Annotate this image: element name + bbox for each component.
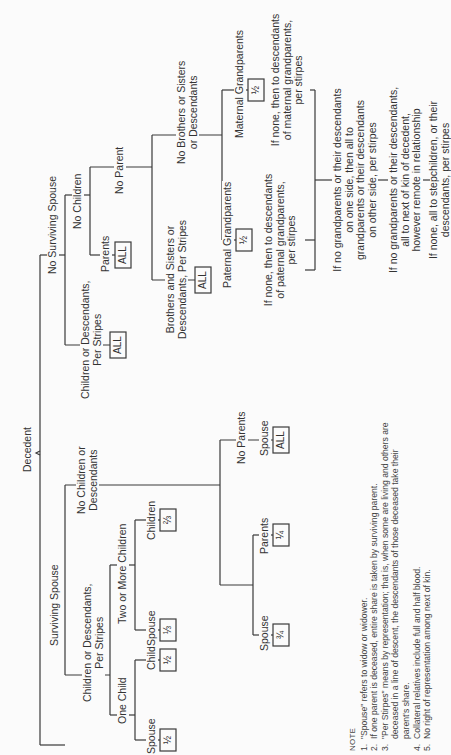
maternal-grandparents-label: Maternal Grandparents bbox=[234, 29, 246, 139]
notes-title: NOTE bbox=[348, 421, 359, 751]
no-parent-label: No Parent bbox=[114, 146, 126, 195]
chain-step-2: If no grandparents or their descendants,… bbox=[388, 85, 423, 275]
note-item: 4.Collateral relatives include full and … bbox=[412, 421, 423, 751]
note-item: 1."Spouse" refers to widow or widower. bbox=[359, 421, 370, 751]
surviving-spouse-label: Surviving Spouse bbox=[49, 563, 61, 647]
siblings-label: Brothers and Sisters or Descendants, Per… bbox=[165, 219, 188, 340]
parents-share: ALL bbox=[117, 242, 128, 268]
chain-step-1: If no grandparents or their descendants … bbox=[332, 85, 378, 275]
no-parents-spouse-share: ALL bbox=[275, 427, 286, 453]
children-descendants-label: Children or Descendants, Per Stripes bbox=[82, 583, 105, 703]
parents-with-spouse-share: ¼ bbox=[275, 524, 286, 546]
note-item: 5.No right of representation among next … bbox=[422, 421, 433, 751]
decedent-label: Decedent bbox=[22, 426, 34, 473]
two-or-more-children-sub-label: Children bbox=[146, 500, 158, 541]
paternal-share: ½ bbox=[238, 229, 249, 251]
paternal-grandparents-label: Paternal Grandparents bbox=[222, 181, 234, 289]
maternal-share: ½ bbox=[250, 79, 261, 101]
no-parents-label: No Parents bbox=[236, 410, 248, 465]
spouse-with-parents-share: ¾ bbox=[275, 624, 286, 646]
nss-children-share: ALL bbox=[112, 332, 123, 358]
two-or-more-spouse-share: ⅓ bbox=[162, 619, 173, 641]
maternal-fallback: If none, then to descendants of maternal… bbox=[270, 5, 305, 155]
siblings-share: ALL bbox=[197, 267, 208, 293]
nss-children-descendants-label: Children or Descendants, Per Stripes bbox=[80, 280, 103, 400]
note-item: 2.If one parent is deceased, entire shar… bbox=[369, 421, 380, 751]
two-or-more-children-share: ⅔ bbox=[162, 509, 173, 531]
chain-step-3: If none, all to stepchildren, or their d… bbox=[428, 85, 451, 275]
two-or-more-children-label: Two or More Children bbox=[117, 523, 129, 625]
paternal-fallback: If none, then to descendants of paternal… bbox=[263, 165, 298, 315]
notes-section: NOTE 1."Spouse" refers to widow or widow… bbox=[348, 421, 433, 751]
parents-label: Parents bbox=[100, 235, 112, 273]
one-child-child-share: ½ bbox=[162, 649, 173, 671]
spouse-with-parents-label: Spouse bbox=[259, 614, 271, 652]
parents-with-spouse-label: Parents bbox=[259, 517, 271, 555]
no-siblings-label: No Brothers or Sisters or Descendants bbox=[176, 60, 199, 165]
no-surviving-spouse-label: No Surviving Spouse bbox=[47, 175, 59, 275]
one-child-child-label: Child bbox=[146, 645, 158, 671]
no-children-label: No Children bbox=[72, 173, 84, 230]
no-parents-spouse-label: Spouse bbox=[259, 419, 271, 457]
one-child-label: One Child bbox=[117, 676, 129, 725]
note-item: 3."Per Stirpes" means by representation;… bbox=[380, 421, 412, 751]
one-child-spouse-label: Spouse bbox=[146, 717, 158, 755]
no-children-or-descendants-label: No Children or Descendants bbox=[76, 445, 99, 515]
two-or-more-spouse-label: Spouse bbox=[146, 609, 158, 647]
one-child-spouse-share: ½ bbox=[162, 729, 173, 751]
